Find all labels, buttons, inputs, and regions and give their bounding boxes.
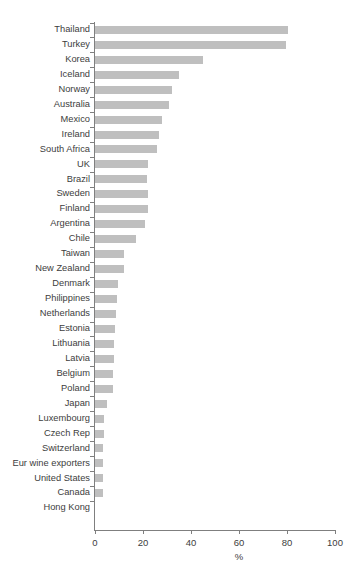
x-axis-tick bbox=[191, 530, 192, 534]
plot-area: ThailandTurkeyKoreaIcelandNorwayAustrali… bbox=[0, 0, 358, 577]
bar-category-label: Lithuania bbox=[52, 338, 90, 349]
bar-category-label: Australia bbox=[54, 99, 90, 110]
bar-row: Korea bbox=[0, 52, 358, 67]
y-axis-tick bbox=[90, 396, 94, 397]
bar bbox=[95, 385, 113, 393]
bar bbox=[95, 265, 124, 273]
bar-row: Lithuania bbox=[0, 336, 358, 351]
bar bbox=[95, 101, 169, 109]
bar-row: Belgium bbox=[0, 366, 358, 381]
bar-row: Netherlands bbox=[0, 307, 358, 322]
bar bbox=[95, 220, 145, 228]
y-axis-tick bbox=[90, 247, 94, 248]
y-axis-tick bbox=[90, 426, 94, 427]
bar-category-label: South Africa bbox=[40, 144, 90, 155]
y-axis-tick bbox=[90, 67, 94, 68]
bar bbox=[95, 41, 286, 49]
bar-row: Poland bbox=[0, 381, 358, 396]
x-axis-tick bbox=[287, 530, 288, 534]
bar bbox=[95, 355, 114, 363]
bar-category-label: Ireland bbox=[62, 129, 90, 140]
bar-row: Iceland bbox=[0, 67, 358, 82]
bar-row: Luxembourg bbox=[0, 411, 358, 426]
bar-row: Hong Kong bbox=[0, 501, 358, 516]
bar-category-label: Czech Rep bbox=[44, 428, 90, 439]
y-axis-tick bbox=[90, 202, 94, 203]
y-axis-tick bbox=[90, 37, 94, 38]
bar-category-label: Netherlands bbox=[40, 308, 90, 319]
bar-category-label: Taiwan bbox=[61, 248, 90, 259]
bar-row: Thailand bbox=[0, 23, 358, 38]
bar-category-label: Brazil bbox=[67, 174, 90, 185]
x-axis-tick-label: 20 bbox=[123, 537, 163, 549]
bar bbox=[95, 340, 114, 348]
bar-row: Turkey bbox=[0, 37, 358, 52]
bar-row: Czech Rep bbox=[0, 426, 358, 441]
bar bbox=[95, 86, 172, 94]
y-axis-tick bbox=[90, 486, 94, 487]
bar-category-label: United States bbox=[34, 473, 90, 484]
bar-category-label: Switzerland bbox=[42, 443, 90, 454]
y-axis-tick bbox=[90, 112, 94, 113]
bar-category-label: Latvia bbox=[65, 353, 90, 364]
bar-row: Japan bbox=[0, 396, 358, 411]
bar bbox=[95, 310, 116, 318]
bar-category-label: Canada bbox=[57, 487, 90, 498]
bar-row: Norway bbox=[0, 82, 358, 97]
x-axis-tick bbox=[239, 530, 240, 534]
bar-category-label: Turkey bbox=[62, 39, 90, 50]
x-axis-tick bbox=[95, 530, 96, 534]
bar bbox=[95, 250, 124, 258]
y-axis-tick bbox=[90, 142, 94, 143]
y-axis-tick bbox=[90, 277, 94, 278]
x-axis-title: % bbox=[0, 551, 358, 562]
y-axis-tick bbox=[90, 307, 94, 308]
bar-category-label: Finland bbox=[60, 203, 91, 214]
bar-row: Philippines bbox=[0, 292, 358, 307]
bar bbox=[95, 430, 104, 438]
bar-row: Switzerland bbox=[0, 441, 358, 456]
y-axis-tick bbox=[90, 471, 94, 472]
bar-row: Estonia bbox=[0, 322, 358, 337]
x-axis-tick-label: 60 bbox=[219, 537, 259, 549]
bar-row: New Zealand bbox=[0, 262, 358, 277]
bar-category-label: Japan bbox=[65, 398, 90, 409]
bar-row: Australia bbox=[0, 97, 358, 112]
x-axis-tick-label: 0 bbox=[75, 537, 115, 549]
y-axis-tick bbox=[90, 232, 94, 233]
y-axis-tick bbox=[90, 97, 94, 98]
bar-row: Chile bbox=[0, 232, 358, 247]
bar bbox=[95, 145, 157, 153]
bar-category-label: Thailand bbox=[54, 24, 90, 35]
y-axis-tick bbox=[90, 336, 94, 337]
bar-row: Taiwan bbox=[0, 247, 358, 262]
bar-category-label: Chile bbox=[69, 233, 90, 244]
bar-row: Denmark bbox=[0, 277, 358, 292]
bar bbox=[95, 205, 148, 213]
bar-row: Latvia bbox=[0, 351, 358, 366]
bar bbox=[95, 71, 179, 79]
bar-category-label: New Zealand bbox=[35, 263, 90, 274]
bar-row: Finland bbox=[0, 202, 358, 217]
bar bbox=[95, 295, 117, 303]
bar-category-label: Estonia bbox=[59, 323, 90, 334]
bar bbox=[95, 459, 103, 467]
y-axis-tick bbox=[90, 217, 94, 218]
y-axis-tick bbox=[90, 82, 94, 83]
bar-row: Canada bbox=[0, 486, 358, 501]
bar bbox=[95, 370, 113, 378]
bar-row: Sweden bbox=[0, 187, 358, 202]
bar-row: Mexico bbox=[0, 112, 358, 127]
bar bbox=[95, 474, 103, 482]
y-axis-tick bbox=[90, 23, 94, 24]
bar-category-label: Philippines bbox=[45, 293, 90, 304]
bar-category-label: Norway bbox=[58, 84, 90, 95]
x-axis-tick-label: 80 bbox=[267, 537, 307, 549]
y-axis-tick bbox=[90, 456, 94, 457]
y-axis-tick bbox=[90, 187, 94, 188]
bar-row: UK bbox=[0, 157, 358, 172]
y-axis-tick bbox=[90, 157, 94, 158]
bar-chart: ThailandTurkeyKoreaIcelandNorwayAustrali… bbox=[0, 0, 358, 577]
bar-category-label: Argentina bbox=[50, 218, 90, 229]
x-axis-tick-label: 40 bbox=[171, 537, 211, 549]
